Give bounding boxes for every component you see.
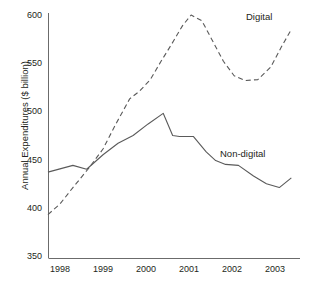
x-tick-label-2003: 2003 — [260, 264, 290, 274]
caption-partial — [8, 284, 304, 292]
x-tick-label-2002: 2002 — [217, 264, 247, 274]
y-tick-label-450: 450 — [16, 155, 42, 165]
series-lines — [48, 15, 291, 215]
x-tick-label-1999: 1999 — [88, 264, 118, 274]
series-label-digital: Digital — [246, 11, 272, 22]
series-line-digital — [48, 15, 291, 215]
line-chart-plot — [0, 0, 312, 293]
x-tick-label-2000: 2000 — [131, 264, 161, 274]
x-tick-label-1998: 1998 — [45, 264, 75, 274]
x-tick-label-2001: 2001 — [174, 264, 204, 274]
y-tick-label-350: 350 — [16, 251, 42, 261]
y-tick-label-400: 400 — [16, 203, 42, 213]
y-tick-label-550: 550 — [16, 58, 42, 68]
series-label-non-digital: Non-digital — [220, 148, 265, 159]
y-axis-title: Annual Expenditures ($ billion) — [19, 46, 30, 206]
y-tick-label-500: 500 — [16, 106, 42, 116]
chart-container: Annual Expenditures ($ billion) 350 400 … — [0, 0, 312, 293]
y-tick-label-600: 600 — [16, 10, 42, 20]
